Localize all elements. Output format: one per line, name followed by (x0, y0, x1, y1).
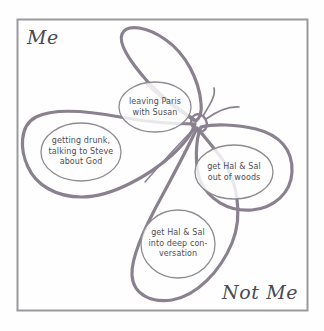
quadrant-label-me: Me (27, 26, 59, 48)
bubble-label-hal-sal-woods: get Hal & Sal out of woods (195, 162, 273, 183)
antenna-lower-icon (206, 107, 239, 119)
quadrant-label-not-me: Not Me (222, 281, 298, 303)
diagram-canvas: Me Not Me leaving Paris with Susan getti… (0, 0, 324, 331)
wing-fold-lower (145, 127, 196, 182)
bubble-label-hal-sal-conversation: get Hal & Sal into deep con- versation (142, 228, 214, 260)
antenna-upper-icon (203, 88, 214, 116)
bubble-label-getting-drunk: getting drunk, talking to Steve about Go… (41, 136, 121, 168)
butterfly-antennae (203, 88, 239, 119)
bubble-label-leaving-paris: leaving Paris with Susan (118, 97, 192, 118)
